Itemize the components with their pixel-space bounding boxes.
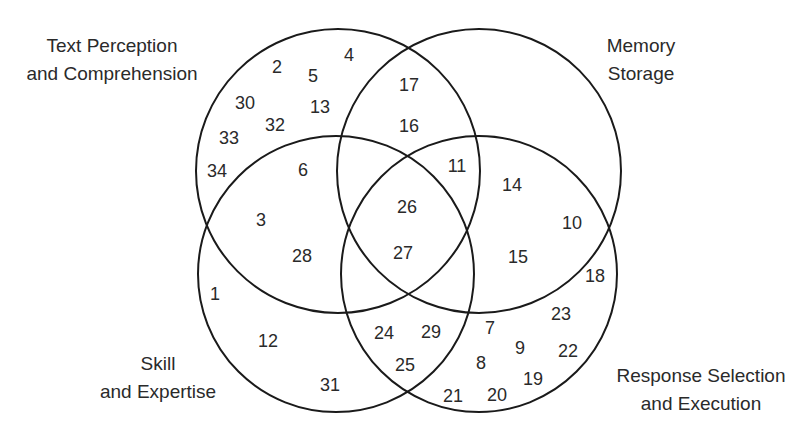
item-number: 12	[258, 331, 278, 351]
set-label-text-line2: and Comprehension	[26, 63, 197, 84]
item-number: 27	[393, 243, 413, 263]
item-number: 22	[558, 341, 578, 361]
item-number: 2	[272, 57, 282, 77]
item-number: 9	[515, 338, 525, 358]
item-number: 15	[508, 247, 528, 267]
item-number: 30	[235, 93, 255, 113]
item-number: 32	[265, 115, 285, 135]
item-number: 3	[256, 210, 266, 230]
item-number: 25	[395, 355, 415, 375]
venn-diagram: Text Perceptionand ComprehensionMemorySt…	[0, 0, 810, 427]
item-numbers: 2543013323334171663281126271410151811231…	[207, 45, 605, 406]
set-label-response-line2: and Execution	[641, 393, 761, 414]
item-number: 34	[207, 161, 227, 181]
item-number: 31	[320, 375, 340, 395]
item-number: 19	[523, 369, 543, 389]
item-number: 28	[292, 246, 312, 266]
item-number: 17	[399, 75, 419, 95]
item-number: 26	[397, 197, 417, 217]
set-label-response-line1: Response Selection	[617, 365, 786, 386]
item-number: 18	[585, 266, 605, 286]
set-label-memory-line1: Memory	[607, 35, 676, 56]
item-number: 11	[448, 156, 467, 176]
item-number: 33	[219, 128, 239, 148]
item-number: 5	[308, 66, 318, 86]
set-label-memory-line2: Storage	[608, 63, 675, 84]
item-number: 20	[487, 385, 507, 405]
item-number: 13	[310, 97, 330, 117]
item-number: 4	[344, 45, 354, 65]
item-number: 23	[551, 304, 571, 324]
item-number: 29	[421, 322, 441, 342]
set-label-skill-line1: Skill	[141, 353, 176, 374]
item-number: 8	[476, 353, 486, 373]
set-label-skill-line2: and Expertise	[100, 381, 216, 402]
item-number: 6	[298, 160, 308, 180]
item-number: 1	[210, 284, 220, 304]
item-number: 16	[399, 116, 419, 136]
item-number: 7	[485, 318, 495, 338]
set-label-text-line1: Text Perception	[47, 35, 178, 56]
item-number: 14	[502, 175, 522, 195]
item-number: 24	[374, 323, 394, 343]
item-number: 21	[443, 386, 463, 406]
item-number: 10	[562, 213, 582, 233]
